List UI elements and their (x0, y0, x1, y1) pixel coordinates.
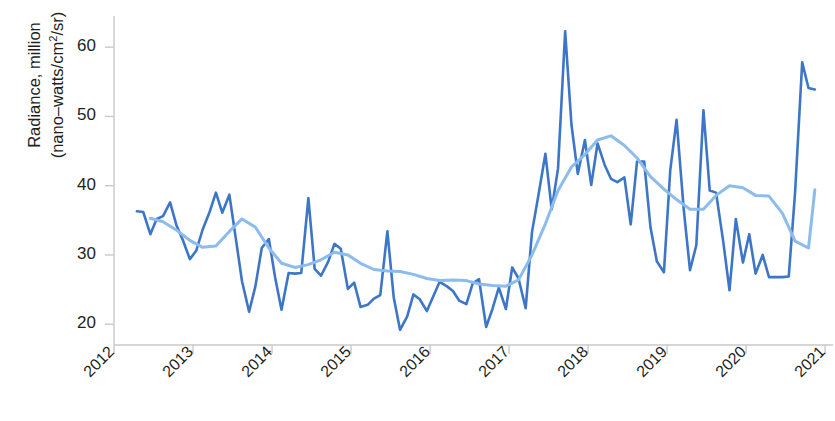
y-axis-tick-label: 30 (56, 244, 96, 264)
axis-lines (114, 16, 833, 345)
y-axis-tick-label: 20 (56, 313, 96, 333)
series-line-smoothed (150, 136, 814, 286)
data-series-group (137, 31, 815, 330)
y-axis-tick-label: 50 (56, 105, 96, 125)
x-axis-ticks (114, 345, 825, 354)
y-axis-ticks (105, 47, 114, 324)
y-axis-tick-label: 40 (56, 175, 96, 195)
radiance-line-chart: Radiance, million (nano–watts/cm2/sr) 20… (0, 0, 835, 421)
series-line-monthly (137, 31, 815, 330)
y-axis-tick-label: 60 (56, 36, 96, 56)
